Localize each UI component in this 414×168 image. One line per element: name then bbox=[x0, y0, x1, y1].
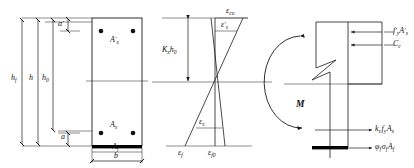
frp-label-af: Af bbox=[112, 143, 118, 151]
figure-canvas: hf h h0 a′ a b A′s As Af Kxh0 εcu ε′s εs… bbox=[0, 0, 414, 168]
rebar-label-as: As bbox=[110, 121, 117, 129]
neutral-axis-depth-label: Kxh0 bbox=[162, 46, 177, 54]
force-diagram-group bbox=[264, 22, 394, 158]
rebar-dot bbox=[99, 29, 104, 34]
strain-diagram-group bbox=[152, 18, 272, 146]
rebar-dot bbox=[131, 29, 136, 34]
rebar-label-as-prime: A′s bbox=[110, 36, 119, 44]
dim-label-a: a bbox=[61, 133, 65, 141]
strain-label-ef0: εf0 bbox=[208, 149, 216, 157]
dim-label-hf: hf bbox=[11, 74, 17, 82]
moment-label-m: M bbox=[296, 100, 304, 110]
dim-label-a-prime: a′ bbox=[58, 20, 64, 28]
force-label-fy-as-prime: f′yA′s bbox=[393, 27, 408, 35]
dim-label-b: b bbox=[114, 152, 118, 160]
force-label-ks-fy-as: ks fy As bbox=[375, 125, 394, 133]
strain-label-ecu: εcu bbox=[226, 7, 234, 15]
dim-label-h0: h0 bbox=[42, 74, 49, 82]
rebar-dot bbox=[99, 131, 104, 136]
force-label-cc: Cc bbox=[393, 40, 401, 48]
dim-label-h: h bbox=[29, 74, 33, 82]
strain-label-es-prime: ε′s bbox=[221, 21, 228, 29]
force-label-phif-sigmaf-af: φf σf Af bbox=[375, 143, 394, 151]
cross-section-group bbox=[22, 18, 148, 163]
strain-label-ef: εf bbox=[178, 149, 183, 157]
rebar-dot bbox=[131, 131, 136, 136]
strain-label-es: εs bbox=[199, 118, 204, 126]
